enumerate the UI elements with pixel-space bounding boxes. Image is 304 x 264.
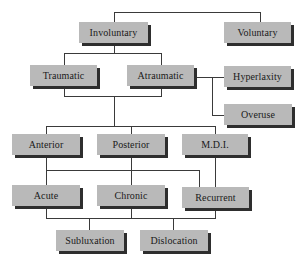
connector-atraumatic-hyperlaxity: [197, 77, 224, 78]
node-subluxation: Subluxation: [56, 230, 124, 251]
connector-overuse: [212, 115, 224, 116]
connector-subluxation-up: [89, 218, 90, 230]
node-traumatic: Traumatic: [30, 65, 97, 86]
connector-row2: [64, 53, 162, 54]
node-voluntary: Voluntary: [224, 22, 291, 43]
connector-posterior-up: [131, 126, 132, 134]
connector-row3-join: [64, 96, 162, 97]
connector-mdi-up: [215, 126, 216, 134]
connector-involuntary-up: [114, 12, 115, 22]
node-posterior: Posterior: [97, 134, 165, 155]
connector-mdi-down: [215, 156, 216, 187]
node-dislocation: Dislocation: [140, 230, 208, 251]
connector-chronic-down: [131, 207, 132, 218]
node-mdi: M.D.I.: [182, 134, 248, 155]
node-overuse: Overuse: [224, 104, 292, 125]
connector-acute-down: [46, 207, 47, 218]
connector-traumatic-down: [64, 88, 65, 96]
connector-row5: [46, 218, 216, 219]
connector-involuntary-down: [114, 43, 115, 53]
connector-overuse-vertical: [212, 77, 213, 115]
connector-anterior-up: [46, 126, 47, 134]
node-acute: Acute: [12, 185, 80, 206]
node-involuntary: Involuntary: [79, 22, 148, 43]
connector-top: [114, 12, 261, 13]
connector-atraumatic-down: [161, 88, 162, 96]
node-anterior: Anterior: [12, 134, 80, 155]
node-recurrent: Recurrent: [182, 187, 249, 208]
connector-atraumatic-up: [161, 53, 162, 65]
connector-dislocation-up: [173, 218, 174, 230]
node-hyperlaxity: Hyperlaxity: [224, 66, 291, 87]
connector-row3-stem: [114, 96, 115, 126]
connector-voluntary-up: [260, 12, 261, 22]
connector-recurrent-down: [215, 209, 216, 218]
connector-row4: [46, 170, 200, 171]
connector-recurrent-up: [199, 170, 200, 187]
node-atraumatic: Atraumatic: [127, 65, 194, 86]
node-chronic: Chronic: [97, 185, 165, 206]
connector-traumatic-up: [64, 53, 65, 65]
